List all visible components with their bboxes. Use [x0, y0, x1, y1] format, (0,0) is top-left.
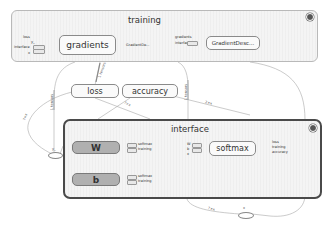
input-stub — [192, 148, 202, 153]
softmax-output-label: loss — [272, 141, 279, 145]
node-y-placeholder[interactable] — [48, 152, 63, 159]
output-stub — [127, 180, 137, 185]
node-gradient-descent[interactable]: GradientDesc... — [206, 36, 260, 50]
softmax-output-label: accuracy — [272, 151, 288, 155]
softmax-input-label: x — [187, 153, 189, 157]
b-output-label: softmax — [138, 175, 152, 179]
softmax-input-label: W — [187, 143, 190, 147]
gradients-input-label: loss — [23, 36, 30, 40]
gradients-input-label: interface — [14, 46, 30, 50]
group-title-interface: interface — [171, 124, 209, 134]
softmax-input-label: b — [187, 148, 189, 152]
gradients-output-label: GradientDe... — [126, 44, 149, 48]
collapse-icon[interactable] — [306, 13, 314, 21]
W-output-label: training — [138, 148, 152, 152]
edge-label: 1 tensors — [50, 94, 54, 110]
output-stub — [127, 148, 137, 153]
node-softmax[interactable]: softmax — [209, 141, 256, 156]
group-title-training: training — [128, 15, 161, 25]
node-variable-b[interactable]: b — [72, 173, 120, 186]
node-x-placeholder[interactable] — [238, 212, 254, 219]
gradients-input-label: y_ — [31, 41, 35, 45]
softmax-output-label: training — [272, 146, 286, 150]
group-training[interactable]: training loss y_ interface x gradients G… — [11, 10, 318, 62]
collapse-icon[interactable] — [309, 124, 317, 132]
b-output-label: training — [138, 180, 152, 184]
edge-label: 1 tensors — [184, 84, 188, 100]
group-interface[interactable]: interface W softmax training b softmax t… — [63, 119, 322, 199]
node-loss[interactable]: loss — [71, 84, 119, 98]
W-output-label: softmax — [138, 143, 152, 147]
y-label: y_ — [52, 147, 56, 151]
node-accuracy[interactable]: accuracy — [122, 84, 178, 98]
x-label: x — [243, 206, 245, 210]
interface-mini-node — [33, 49, 45, 54]
gradients-input-label: x — [28, 52, 30, 56]
gradientdesc-input-label: gradients — [175, 36, 192, 40]
interface-mini-node — [187, 41, 198, 46]
node-gradients[interactable]: gradients — [59, 35, 116, 55]
graph-canvas[interactable]: training loss y_ interface x gradients G… — [0, 0, 322, 232]
node-variable-W[interactable]: W — [72, 141, 120, 154]
